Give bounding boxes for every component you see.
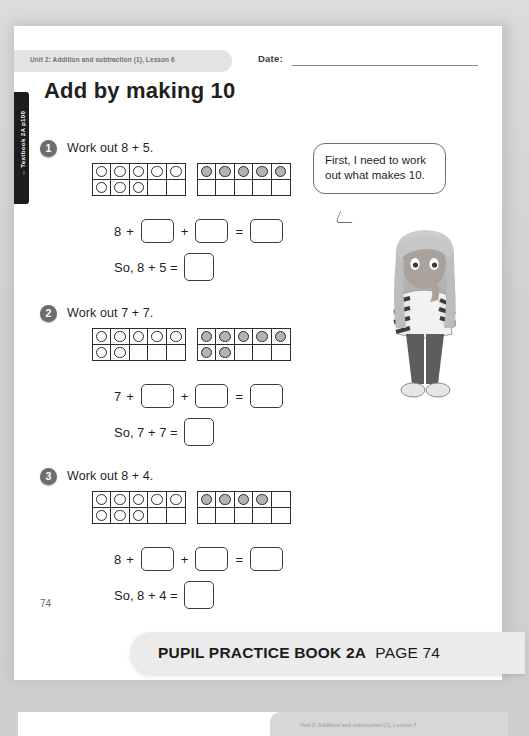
next-page-unit-text: Unit 2: Addition and subtraction (1), Le… xyxy=(300,722,416,728)
ten-frame-cell xyxy=(198,345,216,361)
answer-box-total[interactable] xyxy=(250,219,283,243)
question-prompt: Work out 7 + 7. xyxy=(67,306,153,320)
counter-filled-icon xyxy=(201,494,213,506)
counter-filled-icon xyxy=(275,331,287,343)
ten-frame-cell xyxy=(148,345,166,361)
ten-frame-cell xyxy=(130,180,148,196)
counter-filled-icon xyxy=(201,166,213,178)
counter-filled-icon xyxy=(201,331,213,343)
question-number-badge: 2 xyxy=(40,305,57,322)
equals-sign: = xyxy=(235,389,243,404)
textbook-reference-tab: → Textbook 2A p100 xyxy=(14,92,29,204)
counter-filled-icon xyxy=(256,494,268,506)
answer-box-part-1[interactable] xyxy=(141,219,174,243)
answer-box-conclusion[interactable] xyxy=(184,581,214,609)
ten-frame-cell xyxy=(148,164,166,180)
ten-frame-cell xyxy=(93,492,111,508)
ten-frame-cell xyxy=(235,164,253,180)
banner-book-label: PUPIL PRACTICE BOOK 2A xyxy=(158,644,366,661)
counter-outline-icon xyxy=(133,494,145,506)
ten-frames-group xyxy=(92,491,291,524)
ten-frame-cell xyxy=(148,492,166,508)
screenshot-root: Unit 2: Addition and subtraction (1), Le… xyxy=(0,0,529,736)
equation-row: 8 + + = xyxy=(114,219,285,243)
counter-filled-icon xyxy=(219,347,231,359)
ten-frame-cell xyxy=(198,492,216,508)
ten-frame-cell xyxy=(93,508,111,524)
textbook-reference-label: → Textbook 2A p100 xyxy=(19,86,26,202)
conclusion-text: So, 8 + 5 = xyxy=(114,260,178,275)
ten-frame-cell xyxy=(198,164,216,180)
counter-outline-icon xyxy=(151,331,163,343)
ten-frame-cell xyxy=(216,508,234,524)
answer-box-part-2[interactable] xyxy=(195,219,228,243)
ten-frame-cell xyxy=(253,508,271,524)
conclusion-row: So, 7 + 7 = xyxy=(114,418,216,446)
ten-frame-cell xyxy=(130,508,148,524)
counter-outline-icon xyxy=(170,494,182,506)
date-write-line[interactable] xyxy=(292,65,478,66)
ten-frame-cell xyxy=(111,508,129,524)
conclusion-row: So, 8 + 4 = xyxy=(114,581,216,609)
counter-filled-icon xyxy=(238,166,250,178)
counter-filled-icon xyxy=(256,331,268,343)
counter-outline-icon xyxy=(114,182,126,194)
counter-outline-icon xyxy=(133,166,145,178)
ten-frame-cell xyxy=(235,508,253,524)
equation-row: 7 + + = xyxy=(114,384,285,408)
counter-outline-icon xyxy=(96,331,108,343)
ten-frame-cell xyxy=(198,329,216,345)
date-label: Date: xyxy=(258,53,283,64)
ten-frame-cell xyxy=(272,180,290,196)
counter-outline-icon xyxy=(133,331,145,343)
ten-frame-left xyxy=(92,163,186,196)
answer-box-part-1[interactable] xyxy=(141,547,174,571)
ten-frame-cell xyxy=(93,345,111,361)
ten-frame-cell xyxy=(111,180,129,196)
ten-frame-cell xyxy=(272,492,290,508)
plus-sign-2: + xyxy=(181,552,189,567)
counter-filled-icon xyxy=(219,166,231,178)
equation-row: 8 + + = xyxy=(114,547,285,571)
ten-frame-cell xyxy=(253,180,271,196)
ten-frame-cell xyxy=(216,329,234,345)
counter-outline-icon xyxy=(96,494,108,506)
answer-box-total[interactable] xyxy=(250,384,283,408)
answer-box-total[interactable] xyxy=(250,547,283,571)
ten-frame-cell xyxy=(167,492,185,508)
answer-box-conclusion[interactable] xyxy=(184,418,214,446)
ten-frame-cell xyxy=(272,164,290,180)
counter-outline-icon xyxy=(96,347,108,359)
counter-outline-icon xyxy=(96,182,108,194)
answer-box-conclusion[interactable] xyxy=(184,253,214,281)
ten-frame-cell xyxy=(235,329,253,345)
ten-frame-cell xyxy=(93,164,111,180)
counter-outline-icon xyxy=(114,494,126,506)
counter-filled-icon xyxy=(219,494,231,506)
answer-box-part-2[interactable] xyxy=(195,547,228,571)
ten-frame-cell xyxy=(167,180,185,196)
ten-frames-group xyxy=(92,163,291,196)
ten-frame-cell xyxy=(130,329,148,345)
conclusion-text: So, 8 + 4 = xyxy=(114,588,178,603)
ten-frame-cell xyxy=(111,329,129,345)
ten-frame-cell xyxy=(93,329,111,345)
ten-frame-cell xyxy=(111,492,129,508)
counter-filled-icon xyxy=(256,166,268,178)
ten-frame-cell xyxy=(235,345,253,361)
speech-bubble-tail xyxy=(335,209,358,223)
ten-frame-cell xyxy=(235,492,253,508)
counter-filled-icon xyxy=(201,347,213,359)
conclusion-row: So, 8 + 5 = xyxy=(114,253,216,281)
ten-frame-cell xyxy=(167,508,185,524)
ten-frame-cell xyxy=(216,164,234,180)
answer-box-part-2[interactable] xyxy=(195,384,228,408)
question-number-badge: 3 xyxy=(40,468,57,485)
counter-outline-icon xyxy=(96,510,108,522)
answer-box-part-1[interactable] xyxy=(141,384,174,408)
conclusion-text: So, 7 + 7 = xyxy=(114,425,178,440)
ten-frame-cell xyxy=(198,180,216,196)
ten-frame-cell xyxy=(216,180,234,196)
equation-first-addend: 8 xyxy=(114,224,121,239)
counter-outline-icon xyxy=(151,494,163,506)
